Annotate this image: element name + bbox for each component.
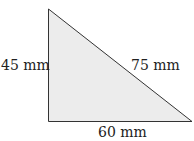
hypotenuse-label: 75 mm [131, 57, 180, 73]
base-label: 60 mm [98, 124, 147, 140]
vertical-side-label: 45 mm [1, 57, 50, 73]
triangle-diagram: 45 mm 75 mm 60 mm [0, 0, 194, 141]
